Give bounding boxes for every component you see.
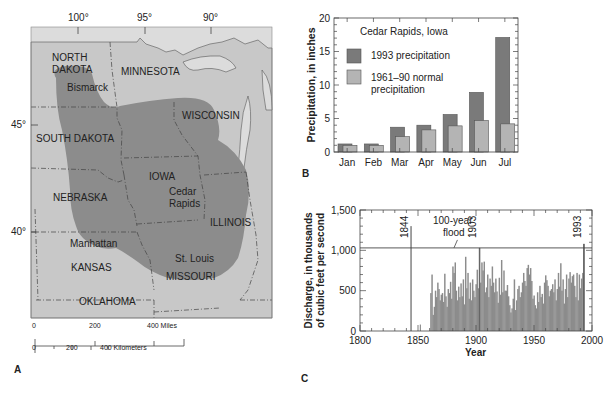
y-tick-label: 5 bbox=[324, 113, 330, 124]
x-tick-label: 1900 bbox=[465, 335, 488, 346]
lon-label-90: 90° bbox=[203, 12, 218, 23]
year-annotation: 1993 bbox=[572, 215, 583, 238]
scale-miles-200: 200 bbox=[89, 322, 101, 329]
city-label-manhattan: Manhattan bbox=[70, 238, 117, 249]
x-axis-title: Year bbox=[465, 347, 486, 358]
lat-label-45: 45° bbox=[11, 119, 26, 130]
map-panel: 100° 95° 90° 45° 40° NORTH DAKOTA MINNES… bbox=[0, 0, 300, 398]
state-label-minnesota: MINNESOTA bbox=[121, 66, 180, 77]
bar-normal bbox=[422, 130, 436, 152]
city-label-bismarck: Bismarck bbox=[67, 82, 108, 93]
scale-km-400: 400 Kilometers bbox=[100, 344, 147, 351]
panel-label-c: C bbox=[301, 373, 308, 384]
y-tick-label: 0 bbox=[324, 147, 330, 158]
city-label-cedar-rapids: Cedar bbox=[169, 186, 196, 197]
year-annotation: 1844 bbox=[399, 215, 410, 238]
precipitation-chart: 05101520JanFebMarAprMayJunJulPrecipitati… bbox=[300, 0, 615, 200]
legend-swatch-1993 bbox=[347, 49, 361, 63]
state-label-north-dakota: NORTH bbox=[52, 52, 87, 63]
panel-label-a: A bbox=[14, 364, 21, 375]
chart-b-title: Cedar Rapids, Iowa bbox=[360, 26, 448, 37]
x-tick-label: Jan bbox=[339, 157, 355, 168]
lat-label-40: 40° bbox=[11, 226, 26, 237]
x-tick-label: 2000 bbox=[581, 335, 604, 346]
y-tick-label: 1,500 bbox=[331, 205, 356, 216]
bar-normal bbox=[474, 121, 488, 152]
y-tick-label: 20 bbox=[319, 13, 331, 24]
lon-label-100: 100° bbox=[68, 12, 89, 23]
panel-label-b: B bbox=[302, 168, 309, 179]
bar-normal bbox=[369, 145, 383, 152]
state-label-missouri: MISSOURI bbox=[166, 271, 215, 282]
state-label-iowa: IOWA bbox=[149, 171, 175, 182]
y-axis-title: of cubic feet per second bbox=[315, 213, 326, 328]
legend-normal-label: 1961–90 normal bbox=[371, 72, 443, 83]
city-label-st-louis: St. Louis bbox=[175, 253, 214, 264]
bar-normal bbox=[501, 124, 515, 152]
x-tick-label: Feb bbox=[365, 157, 383, 168]
scale-miles-400: 400 Miles bbox=[147, 322, 177, 329]
x-tick-label: Mar bbox=[391, 157, 409, 168]
flood-label-line2: flood bbox=[443, 227, 465, 238]
state-label-south-dakota: SOUTH DAKOTA bbox=[36, 133, 114, 144]
flood-label-line1: 100-year bbox=[433, 215, 472, 226]
bar-normal bbox=[343, 145, 357, 152]
scale-miles-0: 0 bbox=[32, 322, 36, 329]
city-label-cedar-rapids: Rapids bbox=[169, 198, 200, 209]
x-tick-label: 1950 bbox=[523, 335, 546, 346]
legend-normal-label: precipitation bbox=[371, 84, 425, 95]
y-tick-label: 500 bbox=[339, 285, 356, 296]
legend-1993-label: 1993 precipitation bbox=[371, 50, 450, 61]
lon-label-95: 95° bbox=[137, 12, 152, 23]
y-axis-title: Precipitation, in inches bbox=[305, 27, 317, 142]
x-tick-label: Jul bbox=[498, 157, 511, 168]
x-tick-label: Jun bbox=[471, 157, 487, 168]
state-label-illinois: ILLINOIS bbox=[210, 217, 251, 228]
map-figure bbox=[0, 0, 300, 330]
x-tick-label: May bbox=[443, 157, 462, 168]
state-label-oklahoma: OKLAHOMA bbox=[79, 296, 136, 307]
legend-swatch-normal bbox=[347, 70, 361, 84]
x-tick-label: Apr bbox=[418, 157, 434, 168]
precipitation-chart-panel: 05101520JanFebMarAprMayJunJulPrecipitati… bbox=[300, 0, 615, 200]
state-label-north-dakota: DAKOTA bbox=[52, 64, 92, 75]
y-tick-label: 10 bbox=[319, 80, 331, 91]
bar-normal bbox=[396, 137, 410, 152]
x-tick-label: 1850 bbox=[407, 335, 430, 346]
discharge-chart-panel: 18441903199305001,0001,50018001850190019… bbox=[300, 195, 615, 398]
state-label-kansas: KANSAS bbox=[71, 262, 112, 273]
state-label-nebraska: NEBRASKA bbox=[53, 192, 107, 203]
y-tick-label: 15 bbox=[319, 46, 331, 57]
y-axis-title: Discharge, in thousands bbox=[303, 212, 314, 329]
y-tick-label: 1,000 bbox=[331, 245, 356, 256]
state-label-wisconsin: WISCONSIN bbox=[182, 110, 240, 121]
x-tick-label: 1800 bbox=[349, 335, 372, 346]
scale-km-200: 200 bbox=[66, 344, 78, 351]
scale-km-0: 0 bbox=[32, 344, 36, 351]
bar-normal bbox=[448, 126, 462, 152]
